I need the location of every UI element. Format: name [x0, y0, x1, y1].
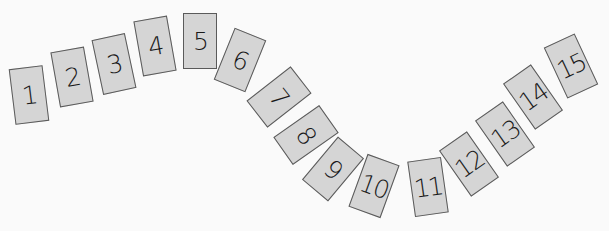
card-number: 8	[292, 122, 320, 148]
card-number: 13	[486, 116, 523, 152]
card-number: 11	[412, 173, 443, 202]
number-card-1: 1	[9, 65, 50, 125]
card-number: 15	[553, 49, 589, 83]
card-number: 6	[229, 46, 251, 74]
card-number: 7	[265, 84, 293, 110]
number-card-2: 2	[50, 46, 93, 107]
number-card-3: 3	[92, 33, 137, 95]
card-number: 1	[21, 82, 38, 109]
card-number: 12	[450, 146, 487, 182]
card-number: 3	[105, 50, 124, 77]
number-card-6: 6	[214, 28, 267, 93]
card-number: 4	[146, 32, 164, 59]
card-number: 5	[193, 29, 207, 54]
number-card-15: 15	[544, 33, 598, 98]
number-card-4: 4	[133, 15, 176, 76]
number-card-5: 5	[183, 13, 217, 69]
number-card-path: 1 2 3 4 5 6 7 8 9 10 11 12 13 14 15	[0, 0, 609, 231]
card-number: 14	[514, 79, 551, 115]
card-number: 10	[357, 169, 392, 202]
number-card-11: 11	[407, 157, 448, 217]
card-number: 2	[63, 63, 81, 90]
card-number: 9	[320, 155, 347, 183]
